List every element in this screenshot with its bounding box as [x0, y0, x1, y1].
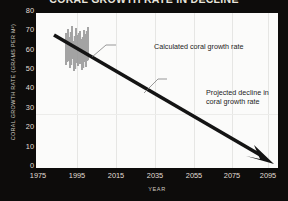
x-tick-1975: 1975: [18, 171, 58, 180]
chart-title: CORAL GROWTH RATE IN DECLINE: [0, 0, 288, 5]
x-tick-2095: 2095: [248, 171, 288, 180]
annotation-leader-lines: [92, 45, 167, 93]
y-tick-40: 40: [8, 84, 34, 92]
y-tick-30: 30: [8, 104, 34, 112]
coral-growth-chart: CORAL GROWTH RATE IN DECLINE CORAL GROWT…: [0, 0, 288, 201]
x-tick-2035: 2035: [135, 171, 175, 180]
x-axis-label: YEAR: [36, 186, 278, 192]
y-tick-0: 0: [8, 162, 34, 170]
annotation-projected-decline: Projected decline in coral growth rate: [206, 89, 269, 106]
x-tick-2055: 2055: [174, 171, 214, 180]
x-tick-1995: 1995: [57, 171, 97, 180]
y-tick-60: 60: [8, 46, 34, 54]
y-tick-80: 80: [8, 7, 34, 15]
plot-area: Calculated coral growth rate Projected d…: [36, 13, 278, 168]
x-tick-2015: 2015: [96, 171, 136, 180]
y-tick-20: 20: [8, 123, 34, 131]
annotation-calculated-growth: Calculated coral growth rate: [154, 43, 244, 52]
y-tick-10: 10: [8, 143, 34, 151]
x-tick-2075: 2075: [212, 171, 252, 180]
y-tick-70: 70: [8, 26, 34, 34]
y-tick-50: 50: [8, 65, 34, 73]
